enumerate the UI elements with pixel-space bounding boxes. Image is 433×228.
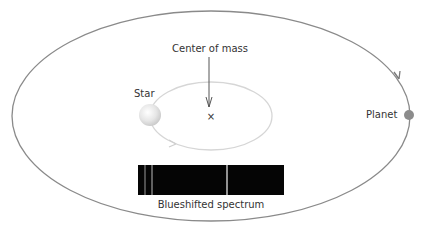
spectrum-background [138,165,284,195]
star-orbit-arrow-icon [169,140,176,147]
spectrum-label: Blueshifted spectrum [158,199,265,210]
blueshifted-spectrum [138,165,284,195]
planet-label: Planet [366,109,397,120]
star [139,104,161,126]
radial-velocity-diagram: × Center of mass Star Planet Blueshifted… [0,0,433,228]
diagram-canvas: × Center of mass Star Planet Blueshifted… [0,0,433,228]
center-of-mass-marker-icon: × [207,111,215,122]
center-of-mass-label: Center of mass [172,43,248,54]
star-label: Star [134,88,155,99]
planet [404,110,414,120]
